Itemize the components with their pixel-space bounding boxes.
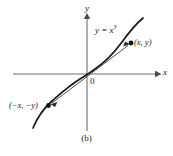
- x-axis-arrowhead: [155, 71, 162, 77]
- point-neg-xy-label: (−x, −y): [9, 101, 38, 110]
- curve-equation-base: y = x: [95, 25, 114, 35]
- point-xy-label: (x, y): [134, 38, 151, 47]
- cubic-symmetry-figure: y x 0 y = x3 (x, y) (−x, −y) (b): [0, 0, 173, 156]
- y-axis-arrowhead: [84, 13, 90, 19]
- curve-equation-exponent: 3: [114, 24, 117, 30]
- figure-caption: (b): [0, 134, 173, 143]
- cubic-curve: [33, 18, 143, 128]
- point-marker-neg-xy: [46, 103, 51, 108]
- symmetry-arrowhead-negative: [51, 102, 58, 107]
- point-marker-xy: [129, 41, 134, 46]
- x-axis-label: x: [163, 68, 167, 77]
- y-axis-label: y: [85, 4, 89, 13]
- curve-equation-label: y = x3: [95, 26, 117, 35]
- origin-label: 0: [90, 77, 95, 86]
